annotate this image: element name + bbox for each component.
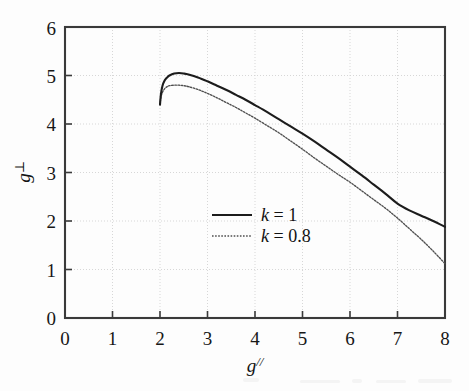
y-tick-label: 2 [47,211,57,232]
x-axis-title-variable: g [247,355,257,376]
y-axis-title-variable: g [13,173,34,183]
y-tick-label: 5 [47,66,57,87]
y-tick-label: 0 [47,308,57,329]
x-tick-label: 5 [298,328,308,349]
scan-artifacts [243,378,452,383]
legend-label-0: k = 1 [261,205,297,225]
legend-value: = 0.8 [269,226,311,246]
legend: k = 1 k = 0.8 [212,205,311,246]
x-tick-label: 7 [393,328,403,349]
x-axis-title: g// [247,354,265,376]
y-axis-title: g⊥ [12,161,34,183]
y-tick-label: 1 [47,260,57,281]
x-tick-label: 4 [250,328,260,349]
grid [65,27,445,318]
x-axis-title-superscript: // [255,354,265,369]
y-tick-labels: 0 1 2 3 4 5 6 [47,18,57,330]
svg-text:g⊥: g⊥ [12,161,34,183]
x-tick-label: 8 [440,328,450,349]
y-tick-label: 3 [47,163,57,184]
y-tick-label: 6 [47,18,57,39]
legend-value: = 1 [269,205,297,225]
x-tick-label: 6 [345,328,355,349]
y-axis-title-superscript: ⊥ [12,161,27,173]
figure-container: 0 1 2 3 4 5 6 0 1 2 3 4 5 6 7 8 g⊥ [0,0,469,391]
x-tick-label: 1 [108,328,118,349]
line-chart: 0 1 2 3 4 5 6 0 1 2 3 4 5 6 7 8 g⊥ [0,0,469,391]
y-tick-label: 4 [47,114,57,135]
svg-text:g//: g// [247,354,265,376]
x-tick-label: 2 [155,328,165,349]
x-tick-labels: 0 1 2 3 4 5 6 7 8 [60,328,450,349]
x-tick-label: 3 [203,328,213,349]
x-tick-label: 0 [60,328,70,349]
legend-label-1: k = 0.8 [261,226,311,246]
